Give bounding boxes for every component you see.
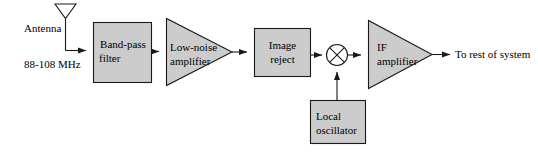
band-pass-filter-label-line1: Band-pass	[98, 38, 148, 51]
local-oscillator-label-line2: oscillator	[316, 124, 357, 137]
band-pass-filter-label-line2: filter	[99, 52, 120, 65]
diagram-canvas	[0, 0, 538, 158]
if-amplifier-label-line1: IF	[377, 41, 387, 54]
antenna-label: Antenna	[24, 22, 61, 35]
low-noise-amplifier-label-line1: Low-noise	[170, 41, 217, 54]
image-reject-label-line1: Image	[255, 39, 310, 52]
input-frequency-label: 88-108 MHz	[24, 58, 81, 71]
output-label: To rest of system	[455, 48, 530, 61]
mixer-icon	[327, 45, 348, 66]
rf-receiver-block-diagram: Antenna 88-108 MHz Band-pass filter Low-…	[0, 0, 538, 158]
if-amplifier-label-line2: amplifier	[377, 55, 417, 68]
low-noise-amplifier-label-line2: amplifier	[170, 55, 210, 68]
image-reject-label-line2: reject	[255, 53, 310, 66]
local-oscillator-label-line1: Local	[316, 110, 341, 123]
